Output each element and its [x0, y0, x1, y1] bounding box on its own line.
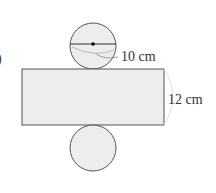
cylinder-net-diagram: ) 10 cm 12 cm	[0, 0, 216, 193]
height-label: 12 cm	[168, 92, 203, 107]
top-base-circle	[70, 23, 116, 69]
diameter-label: 10 cm	[121, 49, 156, 64]
bottom-base-circle	[70, 125, 116, 171]
center-point	[91, 42, 95, 46]
lateral-rectangle	[22, 69, 164, 125]
problem-marker: )	[0, 51, 2, 67]
